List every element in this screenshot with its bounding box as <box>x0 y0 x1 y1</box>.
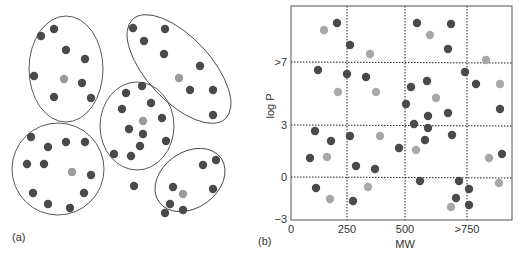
dark-point <box>448 131 456 139</box>
dark-point <box>424 124 432 132</box>
dark-point <box>346 132 354 140</box>
light-point <box>495 179 503 187</box>
compound-point <box>44 143 52 151</box>
compound-point <box>23 160 31 168</box>
cluster-top-left <box>29 16 103 122</box>
compound-point <box>136 142 144 150</box>
cluster-ellipse <box>109 0 249 141</box>
dark-point <box>362 73 370 81</box>
compound-point <box>37 32 45 40</box>
dark-point <box>447 20 455 28</box>
dark-point <box>416 177 424 185</box>
compound-point <box>161 25 169 33</box>
compound-point <box>78 79 86 87</box>
compound-point <box>29 189 37 197</box>
plot-frame <box>291 6 512 220</box>
compound-point <box>129 24 137 32</box>
x-tick-250: 250 <box>338 223 356 235</box>
light-point <box>482 56 490 64</box>
cluster-top-right <box>109 0 249 141</box>
dark-point <box>402 100 410 108</box>
compound-point <box>122 89 130 97</box>
compound-point <box>81 55 89 63</box>
compound-point <box>118 105 126 113</box>
light-point <box>366 50 374 58</box>
dark-point <box>306 154 314 162</box>
compound-point <box>87 94 95 102</box>
compound-point <box>110 150 118 158</box>
horizontal-grid-line <box>291 62 512 63</box>
compound-point <box>40 160 48 168</box>
cluster-ellipse <box>12 123 104 215</box>
dark-point <box>496 105 504 113</box>
y-axis-ticks: >7 3 0 −3 <box>274 56 287 225</box>
compound-point <box>169 183 177 191</box>
light-point <box>412 146 420 154</box>
dark-point <box>349 197 357 205</box>
compound-point <box>27 133 35 141</box>
cluster-centroid-point <box>139 117 147 125</box>
x-axis-ticks: 0 250 500 >750 <box>288 223 479 235</box>
dark-point <box>452 194 460 202</box>
dark-point <box>423 77 431 85</box>
compound-point <box>140 37 148 45</box>
compound-point <box>66 204 74 212</box>
dark-point <box>498 150 506 158</box>
compound-point <box>160 50 168 58</box>
cluster-centroid-point <box>60 75 68 83</box>
outlier-point <box>130 182 138 190</box>
light-point <box>485 154 493 162</box>
compound-point <box>81 138 89 146</box>
dark-point <box>312 184 320 192</box>
panel-a-cluster-diagram <box>12 0 249 225</box>
compound-point <box>209 185 217 193</box>
compound-point <box>162 137 170 145</box>
x-axis-label: MW <box>395 238 415 250</box>
light-point <box>334 88 342 96</box>
dark-point <box>455 177 463 185</box>
dark-point <box>424 112 432 120</box>
compound-point <box>44 200 52 208</box>
dark-point <box>314 66 322 74</box>
compound-point <box>62 46 70 54</box>
dark-point <box>327 137 335 145</box>
y-tick-minus3: −3 <box>274 213 287 225</box>
compound-point <box>209 86 217 94</box>
compound-point <box>87 171 95 179</box>
grid-lines <box>291 6 512 220</box>
panel-a-label: (a) <box>12 231 25 243</box>
x-tick-750: >750 <box>455 223 480 235</box>
horizontal-grid-line <box>291 177 512 178</box>
figure: 0 250 500 >750 MW >7 3 0 −3 log P (a) (b… <box>0 0 526 258</box>
cluster-bottom-right <box>143 135 237 224</box>
dark-point <box>465 201 473 209</box>
light-point <box>376 132 384 140</box>
y-tick-3: 3 <box>281 119 287 131</box>
y-axis-label: log P <box>264 93 276 118</box>
compound-point <box>125 125 133 133</box>
dark-point <box>413 19 421 27</box>
light-point <box>323 153 331 161</box>
light-point <box>320 26 328 34</box>
dark-point <box>461 68 469 76</box>
dark-point <box>410 120 418 128</box>
dark-point <box>444 109 452 117</box>
compound-point <box>50 25 58 33</box>
compound-point <box>62 138 70 146</box>
dark-point <box>311 127 319 135</box>
compound-point <box>147 99 155 107</box>
cluster-centroid-point <box>175 74 183 82</box>
dark-point <box>333 19 341 27</box>
compound-point <box>50 93 58 101</box>
compound-point <box>186 86 194 94</box>
cluster-bottom-left <box>12 123 104 215</box>
light-point <box>372 88 380 96</box>
compound-point <box>138 82 146 90</box>
light-point <box>432 94 440 102</box>
horizontal-grid-line <box>291 125 512 126</box>
light-point <box>364 183 372 191</box>
dark-point <box>371 165 379 173</box>
compound-point <box>209 111 217 119</box>
x-tick-0: 0 <box>288 223 294 235</box>
x-tick-500: 500 <box>396 223 414 235</box>
